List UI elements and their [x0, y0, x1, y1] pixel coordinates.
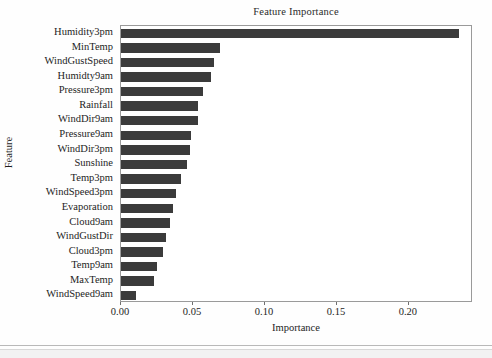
feature-importance-figure: Feature Importance Humidity3pmMinTempWin…	[0, 0, 492, 358]
x-tick-label: 0.10	[255, 306, 273, 317]
bar-row	[121, 70, 211, 85]
bar-row	[121, 157, 187, 172]
plot-area	[120, 25, 472, 302]
y-tick-label: Humidity3pm	[54, 25, 113, 40]
y-tick-label: WindDir3pm	[57, 142, 113, 157]
y-tick-label: WindGustSpeed	[45, 54, 113, 69]
x-tick-mark	[192, 302, 193, 305]
bar	[121, 218, 170, 227]
bar	[121, 29, 459, 38]
y-tick-label: Humidty9am	[58, 69, 113, 84]
bar-row	[121, 55, 214, 70]
bar	[121, 101, 198, 110]
bar-row	[121, 99, 198, 114]
y-axis-tick-labels: Humidity3pmMinTempWindGustSpeedHumidty9a…	[0, 25, 117, 302]
bar	[121, 276, 154, 285]
y-tick-label: Temp9am	[71, 258, 113, 273]
x-axis-ticks: 0.000.050.100.150.20	[120, 302, 472, 324]
y-tick-label: WindSpeed3pm	[46, 185, 113, 200]
bar-row	[121, 230, 166, 245]
bar-row	[121, 113, 198, 128]
x-tick-label: 0.20	[399, 306, 417, 317]
x-tick-mark	[408, 302, 409, 305]
bar	[121, 58, 214, 67]
x-tick-label: 0.00	[111, 306, 129, 317]
x-tick-mark	[336, 302, 337, 305]
bar-row	[121, 245, 163, 260]
bar	[121, 262, 157, 271]
x-tick-mark	[120, 302, 121, 305]
bar	[121, 233, 166, 242]
y-tick-label: Rainfall	[79, 98, 113, 113]
y-tick-label: Temp3pm	[71, 171, 113, 186]
bar-row	[121, 143, 190, 158]
x-tick-label: 0.05	[183, 306, 201, 317]
y-tick-label: WindGustDir	[56, 229, 113, 244]
bar	[121, 247, 163, 256]
x-tick-mark	[264, 302, 265, 305]
bar	[121, 145, 190, 154]
x-tick-label: 0.15	[327, 306, 345, 317]
bar	[121, 43, 220, 52]
bar	[121, 87, 203, 96]
bar-row	[121, 26, 459, 41]
y-tick-label: Pressure3pm	[59, 83, 113, 98]
page-footer-band	[0, 350, 492, 358]
y-tick-label: Evaporation	[62, 200, 113, 215]
y-tick-label: MinTemp	[72, 40, 113, 55]
y-tick-label: Cloud3pm	[69, 244, 113, 259]
bar-row	[121, 128, 191, 143]
page-rule-top	[0, 345, 492, 346]
chart-title: Feature Importance	[120, 6, 472, 17]
bar	[121, 72, 211, 81]
y-tick-label: Pressure9am	[59, 127, 113, 142]
bar-row	[121, 259, 157, 274]
bar-row	[121, 186, 176, 201]
y-tick-label: Sunshine	[74, 156, 113, 171]
bar-row	[121, 216, 170, 231]
bar	[121, 291, 136, 300]
y-tick-label: WindDir9am	[58, 112, 113, 127]
bar-row	[121, 288, 136, 303]
y-tick-label: Cloud9am	[69, 215, 113, 230]
bar-row	[121, 274, 154, 289]
bar-row	[121, 172, 181, 187]
y-tick-label: MaxTemp	[70, 273, 113, 288]
bar-row	[121, 41, 220, 56]
bar	[121, 160, 187, 169]
bar-row	[121, 201, 173, 216]
bar	[121, 131, 191, 140]
y-tick-label: WindSpeed9am	[46, 287, 113, 302]
bar	[121, 116, 198, 125]
bar-series	[121, 26, 471, 301]
bar	[121, 189, 176, 198]
x-axis-title: Importance	[120, 322, 472, 333]
y-axis-title: Feature	[3, 123, 14, 183]
bar	[121, 174, 181, 183]
bar	[121, 204, 173, 213]
bar-row	[121, 84, 203, 99]
